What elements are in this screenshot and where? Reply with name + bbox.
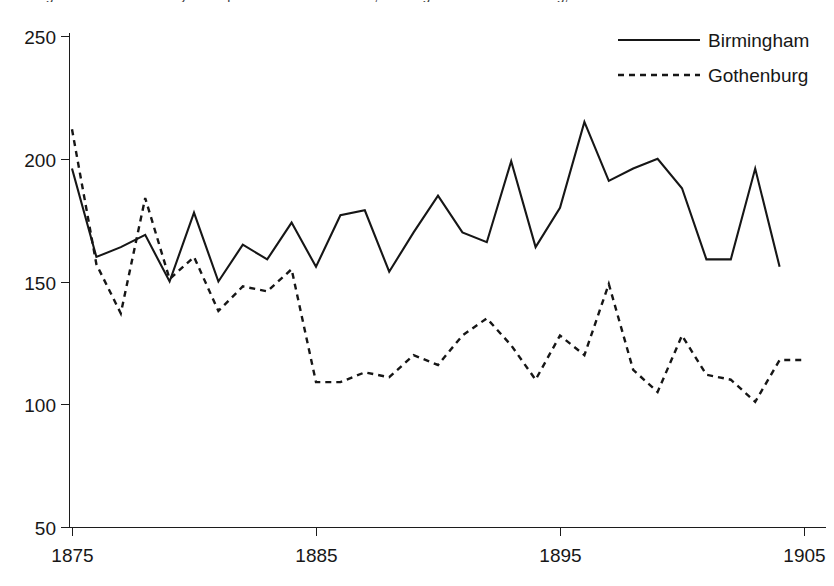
line-chart: 50100150200250 1875188518951905 Birmingh… xyxy=(0,0,834,586)
figure-caption: Figure 1. Infant mortality rates per tho… xyxy=(34,0,734,2)
y-tick-label: 100 xyxy=(24,395,56,416)
series-line-gothenburg xyxy=(72,129,804,402)
y-tick-label: 200 xyxy=(24,150,56,171)
chart-container: Figure 1. Infant mortality rates per tho… xyxy=(0,0,834,586)
x-axis-ticks: 1875188518951905 xyxy=(51,528,825,567)
legend-label-gothenburg: Gothenburg xyxy=(708,65,808,86)
legend-label-birmingham: Birmingham xyxy=(708,30,809,51)
series-line-birmingham xyxy=(72,122,780,282)
x-tick-label: 1875 xyxy=(51,545,93,566)
x-tick-label: 1905 xyxy=(783,545,825,566)
x-tick-label: 1895 xyxy=(539,545,581,566)
y-axis-ticks: 50100150200250 xyxy=(24,27,69,539)
series-group xyxy=(72,122,804,402)
chart-legend: BirminghamGothenburg xyxy=(618,30,809,86)
y-tick-label: 150 xyxy=(24,273,56,294)
y-tick-label: 50 xyxy=(35,518,56,539)
x-tick-label: 1885 xyxy=(295,545,337,566)
y-tick-label: 250 xyxy=(24,27,56,48)
